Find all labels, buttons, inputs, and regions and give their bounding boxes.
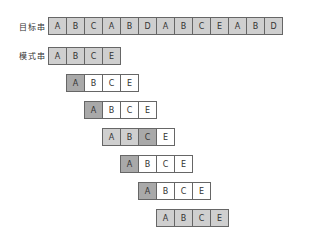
pattern-row: ABCE [103,128,175,146]
pattern-cell: A [66,74,85,92]
target-label: 目标串 [19,21,46,32]
pattern-cell: E [138,101,157,119]
pattern-cell: B [66,47,85,65]
pattern-cell: C [84,47,103,65]
pattern-cell: E [120,74,139,92]
target-cell: E [210,17,229,35]
pattern-cell: B [84,74,103,92]
pattern-cell: C [102,74,121,92]
pattern-label: 模式串 [19,50,46,61]
pattern-cell: C [120,101,139,119]
pattern-cell: C [138,128,157,146]
target-cell: D [138,17,157,35]
pattern-cell: A [84,101,103,119]
target-cell: B [246,17,265,35]
pattern-cell: B [156,182,175,200]
target-cell: B [174,17,193,35]
target-cell: C [192,17,211,35]
target-cell: A [48,17,67,35]
target-string-row: ABCABDABCEABD [49,17,283,35]
pattern-row: ABCE [121,155,193,173]
target-cell: D [264,17,283,35]
pattern-cell: B [174,209,193,227]
pattern-row: ABCE [67,74,139,92]
pattern-cell: E [192,182,211,200]
target-cell: A [156,17,175,35]
pattern-cell: A [102,128,121,146]
pattern-cell: E [210,209,229,227]
pattern-cell: A [120,155,139,173]
pattern-row: ABCE [157,209,229,227]
target-cell: B [66,17,85,35]
pattern-cell: A [156,209,175,227]
target-cell: A [228,17,247,35]
pattern-cell: C [156,155,175,173]
target-cell: A [102,17,121,35]
pattern-cell: B [120,128,139,146]
pattern-cell: E [174,155,193,173]
pattern-row: ABCE [49,47,121,65]
target-cell: C [84,17,103,35]
pattern-row: ABCE [139,182,211,200]
pattern-cell: B [138,155,157,173]
pattern-cell: A [48,47,67,65]
pattern-cell: A [138,182,157,200]
pattern-cell: B [102,101,121,119]
pattern-cell: E [102,47,121,65]
pattern-cell: E [156,128,175,146]
pattern-row: ABCE [85,101,157,119]
pattern-cell: C [192,209,211,227]
target-cell: B [120,17,139,35]
pattern-cell: C [174,182,193,200]
